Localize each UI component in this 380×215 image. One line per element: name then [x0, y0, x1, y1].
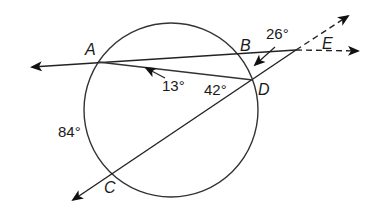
angle-label-13: 13°	[162, 78, 185, 93]
angle-label-26: 26°	[266, 26, 289, 41]
point-label-D: D	[258, 82, 270, 98]
angle-label-42: 42°	[204, 82, 227, 97]
circle	[84, 23, 258, 197]
geometry-diagram	[0, 0, 380, 215]
point-label-E: E	[322, 36, 333, 52]
point-label-C: C	[104, 180, 116, 196]
point-label-B: B	[240, 38, 251, 54]
arc-label-84: 84°	[58, 124, 81, 139]
pointer-26-arrow	[255, 47, 275, 65]
point-label-A: A	[85, 42, 96, 58]
